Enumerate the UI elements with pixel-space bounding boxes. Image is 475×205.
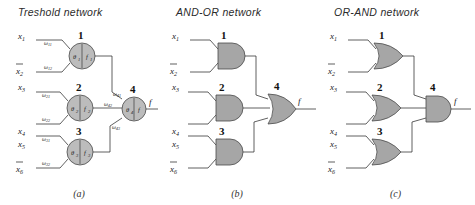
panel-b-diagram: 1 2 3 4 f <box>158 0 316 205</box>
panel-b-output-label: f <box>298 96 302 106</box>
panel-c-input-wires <box>346 40 376 168</box>
panel-a-node-2: θ 2 f 2 2 <box>67 81 93 121</box>
weight-22: ω22 <box>42 116 50 123</box>
input-label-6: x6 <box>327 164 335 175</box>
weight-43: ω43 <box>112 124 120 131</box>
panel-c-diagram: 1 2 3 4 f <box>316 0 475 205</box>
input-label-4: x4 <box>329 126 337 137</box>
caption-c: (c) <box>316 188 475 199</box>
input-label-2: x2 <box>327 66 335 77</box>
node-2-number: 2 <box>76 81 82 93</box>
panel-a-output-label: f <box>149 97 153 107</box>
input-label-3: x3 <box>17 82 25 93</box>
gate-3-number: 3 <box>377 125 383 137</box>
node-1-func-sub: 1 <box>90 57 92 62</box>
panel-a-diagram: θ 1 f 1 1 θ 2 f 2 2 θ 3 <box>0 0 158 205</box>
panel-b-gate-2: 2 <box>216 81 243 121</box>
input-label-5: x5 <box>329 139 337 150</box>
panel-b-input-wires <box>188 40 218 168</box>
panel-c-gate-4: 4 f <box>426 81 471 122</box>
gate-2-number: 2 <box>377 81 383 93</box>
figure-root: Treshold network θ 1 f 1 1 <box>0 0 475 205</box>
panel-c-gate-3: 3 <box>372 125 401 165</box>
panel-b-input-labels: x1 x2 x3 x4 x5 x6 <box>169 31 179 175</box>
input-label-2: x2 <box>15 66 23 77</box>
panel-b-gate-4: 4 f <box>268 80 316 124</box>
panel-a-node-4: θ 4 f 4 f <box>122 83 158 121</box>
weight-41: ω41 <box>113 91 121 98</box>
gate-3-number: 3 <box>219 125 225 137</box>
panel-c-interconnect-wires <box>401 56 428 152</box>
panel-b-gate-3: 3 <box>216 125 243 165</box>
panel-c-gate-2: 2 <box>372 81 401 121</box>
gate-4-number: 4 <box>430 81 436 93</box>
caption-a: (a) <box>0 188 158 199</box>
weight-32: ω32 <box>42 160 50 167</box>
weight-31: ω31 <box>42 136 50 143</box>
input-label-6: x6 <box>15 164 23 175</box>
panel-a-input-labels: x1 x2 x3 x4 x5 x6 <box>15 31 25 175</box>
input-label-2: x2 <box>169 66 177 77</box>
gate-1-number: 1 <box>379 29 385 41</box>
node-1-theta-sub: 1 <box>78 57 80 62</box>
gate-2-number: 2 <box>219 81 225 93</box>
input-label-6: x6 <box>169 164 177 175</box>
panel-b-gate-1: 1 <box>218 29 245 69</box>
panel-c-output-label: f <box>454 96 458 106</box>
weight-11: ω11 <box>44 40 52 47</box>
input-label-4: x4 <box>17 126 25 137</box>
input-label-3: x3 <box>329 82 337 93</box>
gate-1-number: 1 <box>221 29 227 41</box>
input-label-3: x3 <box>171 82 179 93</box>
node-4-number: 4 <box>130 83 136 95</box>
node-3-number: 3 <box>76 125 82 137</box>
input-label-5: x5 <box>171 139 179 150</box>
input-label-5: x5 <box>17 139 25 150</box>
gate-4-number: 4 <box>274 80 280 92</box>
panel-a-node-1: θ 1 f 1 1 <box>69 29 95 69</box>
panel-a-node-3: θ 3 f 3 3 <box>67 125 93 165</box>
panel-b-interconnect-wires <box>243 56 270 152</box>
weight-12: ω12 <box>44 64 52 71</box>
input-label-4: x4 <box>171 126 179 137</box>
weight-21: ω21 <box>42 92 50 99</box>
caption-b: (b) <box>158 188 316 199</box>
input-label-1: x1 <box>171 31 179 42</box>
panel-or-and-network: OR-AND network 1 2 <box>316 0 475 205</box>
panel-c-gate-1: 1 <box>374 29 403 69</box>
panel-c-input-labels: x1 x2 x3 x4 x5 x6 <box>327 31 337 175</box>
panel-a-input-wires <box>36 40 70 168</box>
node-1-number: 1 <box>78 29 84 41</box>
panel-and-or-network: AND-OR network 1 2 <box>158 0 316 205</box>
weight-42: ω42 <box>104 101 112 108</box>
input-label-1: x1 <box>17 31 25 42</box>
panel-threshold-network: Treshold network θ 1 f 1 1 <box>0 0 158 205</box>
input-label-1: x1 <box>329 31 337 42</box>
